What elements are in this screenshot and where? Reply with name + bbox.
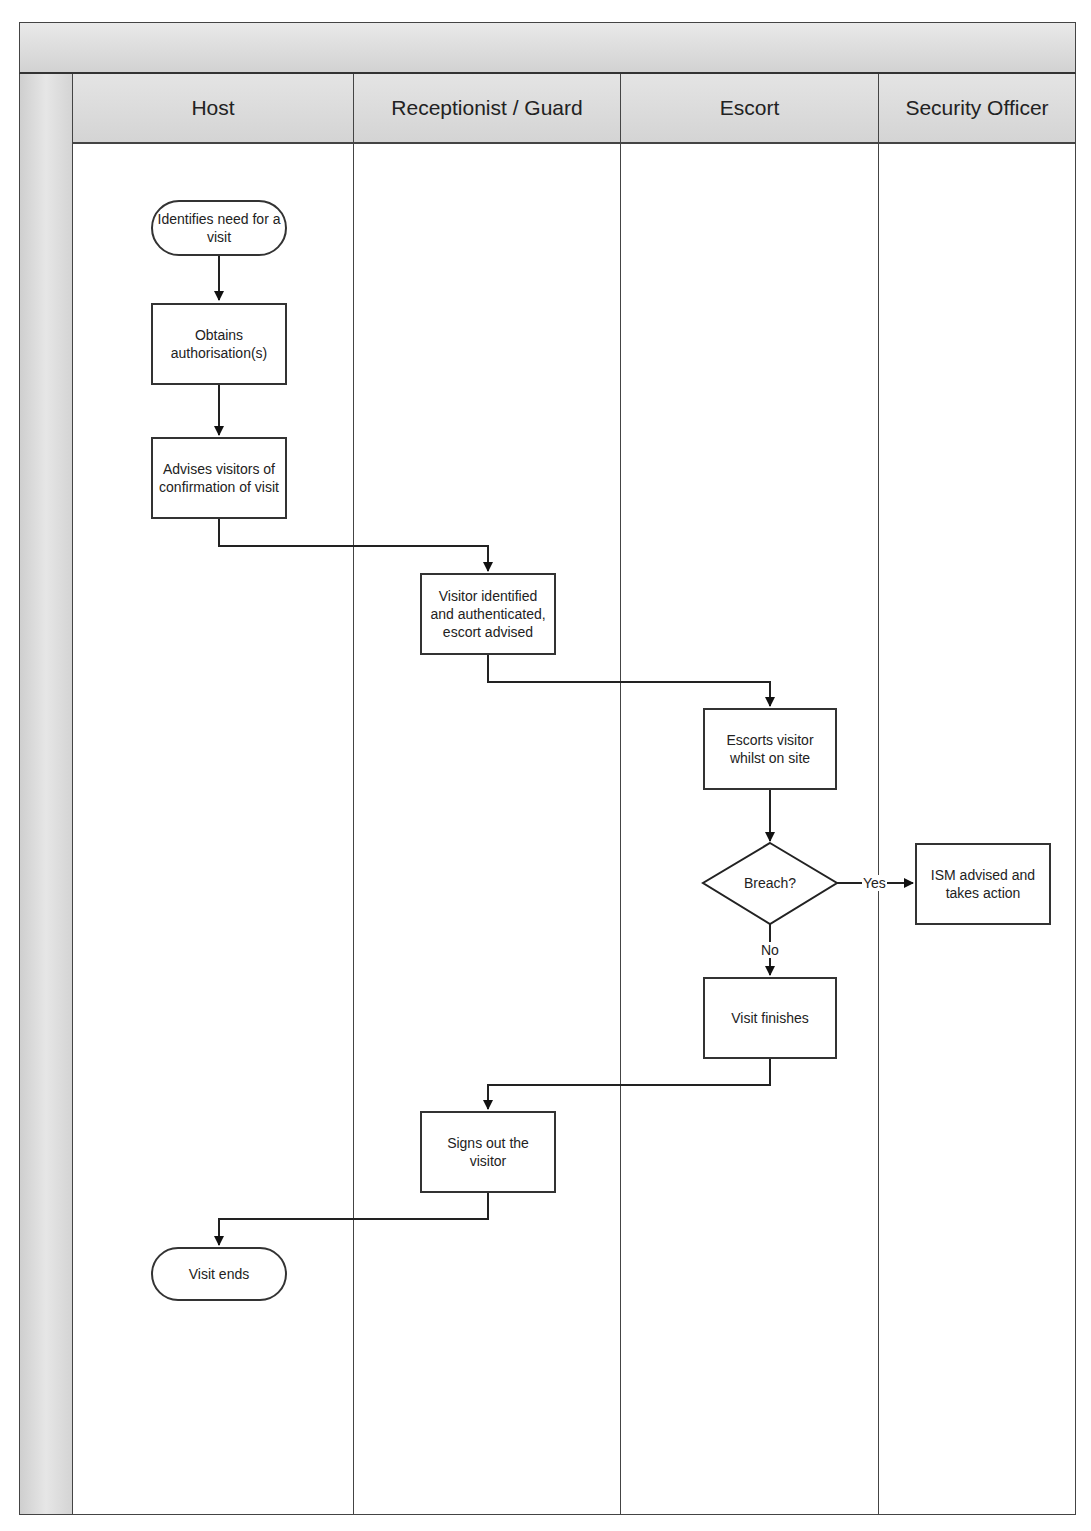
edge-advise-identify [219,519,488,571]
signs-out-node[interactable]: Signs out the visitor [420,1111,556,1193]
edge-finish-signout [488,1059,770,1109]
edge-label-no: No [760,942,780,958]
edge-signout-end [219,1193,488,1245]
end-node[interactable]: Visit ends [151,1247,287,1301]
escorts-visitor-node[interactable]: Escorts visitor whilst on site [703,708,837,790]
edge-identify-escorts [488,655,770,706]
advise-visitors-node[interactable]: Advises visitors of confirmation of visi… [151,437,287,519]
visit-finishes-node[interactable]: Visit finishes [703,977,837,1059]
start-node[interactable]: Identifies need for a visit [151,200,287,256]
edge-label-yes: Yes [862,875,887,891]
visitor-identified-node[interactable]: Visitor identified and authenticated, es… [420,573,556,655]
obtain-authorisation-node[interactable]: Obtains authorisation(s) [151,303,287,385]
ism-advised-node[interactable]: ISM advised and takes action [915,843,1051,925]
breach-decision-label[interactable]: Breach? [723,870,817,896]
